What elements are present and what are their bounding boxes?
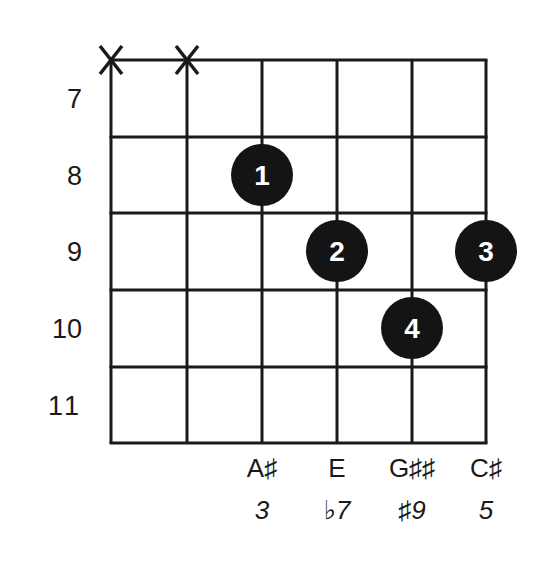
fret-number-10: 10 <box>22 316 82 343</box>
finger-number: 1 <box>254 160 270 191</box>
fret-number-7: 7 <box>22 86 82 113</box>
chord-diagram: 1234 7 8 9 10 11 A♯ E G♯♯ C♯ 3 ♭7 ♯9 5 <box>0 0 537 579</box>
finger-dot-3: 3 <box>455 220 517 282</box>
finger-number: 4 <box>404 313 420 344</box>
fret-number-9: 9 <box>22 239 82 266</box>
note-label: C♯ <box>451 455 521 481</box>
finger-number: 2 <box>329 236 345 267</box>
note-label: E <box>302 455 372 481</box>
finger-dots: 1234 <box>231 144 517 359</box>
interval-label: ♯9 <box>377 497 447 523</box>
finger-dot-4: 4 <box>381 297 443 359</box>
fret-number-8: 8 <box>22 163 82 190</box>
note-label: A♯ <box>227 455 297 481</box>
fret-lines <box>110 60 488 443</box>
interval-label: 3 <box>227 497 297 523</box>
note-label: G♯♯ <box>377 455 447 481</box>
finger-dot-2: 2 <box>306 220 368 282</box>
string-lines <box>111 60 486 443</box>
interval-label: ♭7 <box>302 497 372 523</box>
finger-dot-1: 1 <box>231 144 293 206</box>
interval-label: 5 <box>451 497 521 523</box>
finger-number: 3 <box>478 236 494 267</box>
fret-number-11: 11 <box>22 393 82 420</box>
